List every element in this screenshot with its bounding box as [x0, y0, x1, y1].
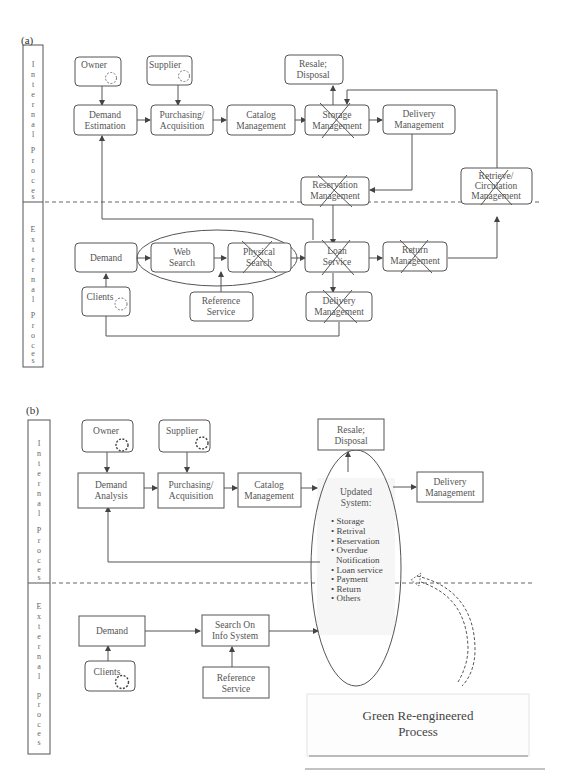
panel-b-node-demand: Demand [79, 616, 145, 646]
svg-text:r: r [32, 100, 35, 109]
svg-text:P: P [37, 526, 42, 535]
svg-text:Analysis: Analysis [94, 491, 128, 501]
panel-a-node-ext-delivery-crossed: Delivery Management [306, 290, 372, 323]
svg-text:Supplier: Supplier [149, 60, 182, 70]
svg-text:l: l [38, 672, 41, 681]
svg-text:Disposal: Disposal [334, 436, 368, 446]
svg-text:r: r [32, 156, 35, 165]
panel-b-external-lane-label: External proces [37, 602, 42, 747]
svg-text:o: o [31, 166, 35, 175]
svg-text:Disposal: Disposal [296, 70, 330, 80]
svg-text:o: o [37, 710, 41, 719]
svg-text:Search: Search [169, 258, 195, 268]
svg-text:Green Re-engineered: Green Re-engineered [363, 708, 474, 723]
panel-a-node-demand-estimation: Demand Estimation [74, 105, 137, 135]
svg-text:Reference: Reference [217, 673, 256, 683]
svg-text:Demand: Demand [96, 626, 128, 636]
panel-a-node-loan-service-crossed: Loan Service [305, 240, 369, 275]
svg-text:Web: Web [173, 247, 190, 257]
svg-text:Management: Management [310, 191, 360, 201]
svg-text:Service: Service [207, 307, 236, 317]
svg-text:Process: Process [398, 724, 438, 739]
svg-text:P: P [31, 146, 36, 155]
svg-text:e: e [31, 255, 35, 264]
svg-text:s: s [37, 573, 40, 582]
svg-text:Management: Management [312, 121, 362, 131]
panel-b-node-purchasing: Purchasing/ Acquisition [158, 473, 224, 508]
svg-text:• Retrival: • Retrival [331, 526, 366, 536]
svg-text:I: I [38, 439, 41, 448]
svg-text:r: r [38, 536, 41, 545]
svg-text:n: n [37, 449, 41, 458]
svg-text:Resale;: Resale; [299, 59, 327, 69]
svg-text:x: x [31, 235, 35, 244]
panel-b-internal-lane-label: Internal Proces [37, 439, 42, 582]
panel-b-node-resale-disposal: Resale; Disposal [318, 419, 384, 450]
svg-text:Estimation: Estimation [84, 121, 125, 131]
svg-text:Purchasing/: Purchasing/ [169, 480, 214, 490]
svg-text:Resale;: Resale; [337, 425, 365, 435]
svg-text:E: E [37, 602, 42, 611]
svg-text:P: P [31, 311, 36, 320]
svg-text:a: a [31, 285, 35, 294]
svg-text:Search On: Search On [215, 620, 255, 630]
panel-a-node-supplier: Supplier [147, 56, 192, 85]
svg-text:c: c [31, 176, 35, 185]
svg-text:Management: Management [471, 191, 521, 201]
svg-text:a: a [31, 120, 35, 129]
svg-text:Updated: Updated [340, 487, 372, 497]
svg-text:Service: Service [323, 257, 352, 267]
svg-text:e: e [31, 90, 35, 99]
svg-text:c: c [37, 556, 41, 565]
svg-text:Reference: Reference [202, 296, 241, 306]
panel-a-node-web-search: Web Search [151, 243, 214, 272]
panel-b-node-supplier: Supplier [159, 420, 210, 452]
svg-text:p: p [37, 690, 41, 699]
svg-text:o: o [31, 331, 35, 340]
svg-text:• Storage: • Storage [331, 516, 364, 526]
panel-a-node-reservation-crossed: Reservation Management [301, 175, 369, 207]
panel-a-node-demand: Demand [75, 243, 137, 272]
svg-text:n: n [31, 275, 35, 284]
svg-text:Search: Search [246, 258, 272, 268]
svg-text:I: I [32, 60, 35, 69]
svg-text:r: r [38, 700, 41, 709]
svg-text:Purchasing/: Purchasing/ [160, 110, 205, 120]
svg-text:• Payment: • Payment [331, 574, 368, 584]
svg-text:e: e [37, 729, 41, 738]
panel-b-node-clients: Clients [85, 661, 135, 691]
panel-a-node-catalog: Catalog Management [227, 105, 295, 135]
panel-b-node-owner: Owner [82, 420, 133, 452]
svg-text:Catalog: Catalog [254, 480, 284, 490]
svg-text:Retrieve/: Retrieve/ [479, 171, 514, 181]
svg-text:Clients: Clients [94, 667, 121, 677]
svg-text:Management: Management [425, 488, 475, 498]
svg-text:l: l [32, 130, 35, 139]
svg-text:Acquisition: Acquisition [160, 121, 205, 131]
svg-text:t: t [38, 459, 41, 468]
svg-text:s: s [31, 192, 34, 201]
svg-text:n: n [31, 70, 35, 79]
panel-a-node-retrieve-crossed: Retrieve/ Circulation Management [461, 168, 532, 205]
svg-text:Owner: Owner [93, 426, 120, 436]
panel-a-node-resale-disposal: Resale; Disposal [285, 55, 343, 84]
panel-b-label: (b) [26, 404, 39, 417]
svg-text:l: l [32, 295, 35, 304]
panel-b-node-demand-analysis: Demand Analysis [78, 473, 144, 508]
green-reengineered-callout: Green Re-engineered Process [307, 694, 529, 756]
svg-text:• Others: • Others [331, 593, 361, 603]
panel-a-node-owner: Owner [75, 57, 121, 86]
svg-text:e: e [37, 469, 41, 478]
svg-text:a: a [37, 662, 41, 671]
svg-text:t: t [38, 622, 41, 631]
panel-a-node-clients: Clients [82, 287, 130, 316]
svg-text:Acquisition: Acquisition [169, 491, 214, 501]
curved-dashed-arrow-icon [411, 573, 475, 686]
svg-text:Info System: Info System [212, 631, 259, 641]
svg-text:E: E [31, 225, 36, 234]
svg-text:t: t [32, 80, 35, 89]
panel-a-internal-lane-label: Internal Proces [31, 60, 36, 201]
svg-text:r: r [32, 265, 35, 274]
svg-text:Demand: Demand [95, 480, 127, 490]
svg-text:Clients: Clients [87, 292, 114, 302]
